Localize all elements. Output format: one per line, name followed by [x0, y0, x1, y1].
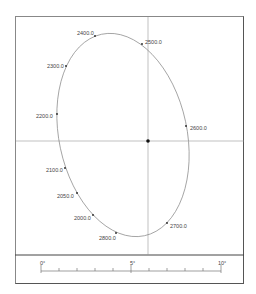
orbit-point-marker — [115, 232, 117, 234]
orbit-point-marker — [166, 222, 168, 224]
scale-label: 5° — [130, 260, 135, 266]
scale-label: 10° — [218, 260, 226, 266]
orbit-point-label: 2000.0 — [74, 215, 91, 221]
orbit-point-label: 2400.0 — [77, 30, 94, 36]
orbit-point-label: 2200.0 — [36, 113, 53, 119]
orbit-points: 2400.02500.02300.02200.02600.02100.02050… — [36, 30, 207, 241]
orbit-point-marker — [94, 35, 96, 37]
orbit-point-marker — [56, 113, 58, 115]
center-point — [146, 139, 150, 143]
orbit-point-label: 2700.0 — [170, 223, 187, 229]
orbit-point-marker — [64, 167, 66, 169]
orbit-point-marker — [65, 65, 67, 67]
orbit-point-marker — [185, 125, 187, 127]
orbit-point-label: 2500.0 — [145, 39, 162, 45]
orbit-point-label: 2300.0 — [47, 63, 64, 69]
orbit-point-label: 2100.0 — [46, 167, 63, 173]
orbit-ellipse — [39, 21, 207, 249]
scale-label: 0° — [40, 260, 45, 266]
orbit-point-label: 2050.0 — [57, 193, 74, 199]
orbit-point-label: 2600.0 — [190, 125, 207, 131]
scale-bar: 0°5°10° — [40, 260, 226, 273]
orbit-diagram: 2400.02500.02300.02200.02600.02100.02050… — [0, 0, 256, 294]
orbit-point-marker — [76, 192, 78, 194]
orbit-point-label: 2800.0 — [99, 235, 116, 241]
orbit-point-marker — [92, 214, 94, 216]
orbit-point-marker — [141, 43, 143, 45]
